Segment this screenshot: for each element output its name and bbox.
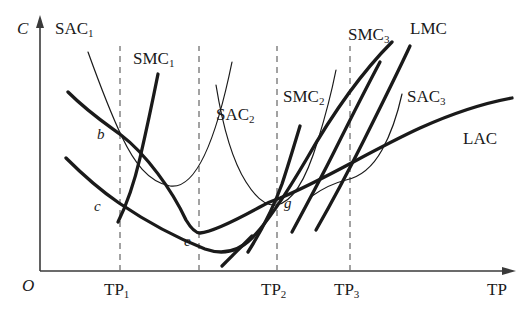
curve-label-smc1: SMC1 <box>133 50 174 69</box>
tick-label-tp3: TP3 <box>334 281 359 300</box>
curve-label-sac3-text: SAC <box>407 87 440 106</box>
curve-label-smc1-text: SMC <box>133 49 169 68</box>
curve-label-lac: LAC <box>463 130 497 147</box>
tick-label-tp1-sub: 1 <box>124 288 130 300</box>
point-label-b: b <box>97 127 105 142</box>
origin-label: O <box>22 277 34 294</box>
curve-label-sac2-sub: 2 <box>249 113 255 125</box>
tick-label-tp3-sub: 3 <box>354 288 360 300</box>
point-label-g: g <box>284 196 292 211</box>
curve-label-smc2-sub: 2 <box>319 95 325 107</box>
point-label-c: c <box>94 199 101 214</box>
curve-label-sac1-text: SAC <box>55 19 88 38</box>
tick-label-tp2: TP2 <box>261 281 286 300</box>
x-axis-arrowhead <box>502 267 516 275</box>
tick-label-tp1-text: TP <box>104 280 124 299</box>
x-axis-label: TP <box>487 281 507 298</box>
tick-label-tp1: TP1 <box>104 281 129 300</box>
curve-label-sac2: SAC2 <box>216 106 255 125</box>
tick-label-tp2-text: TP <box>261 280 281 299</box>
curve-label-sac3: SAC3 <box>407 88 446 107</box>
curve-label-lmc: LMC <box>410 20 447 37</box>
y-axis-arrowhead <box>36 15 44 28</box>
curve-label-sac1: SAC1 <box>55 20 94 39</box>
curve-label-lac-text: LAC <box>463 129 497 148</box>
tick-label-tp2-sub: 2 <box>281 288 287 300</box>
tick-label-tp3-text: TP <box>334 280 354 299</box>
curve-label-smc1-sub: 1 <box>169 57 175 69</box>
y-axis-label: C <box>17 20 28 37</box>
cost-curves-plot <box>0 0 529 320</box>
curve-label-smc3: SMC3 <box>348 26 389 45</box>
curve-label-sac2-text: SAC <box>216 105 249 124</box>
cost-curves-figure: C O TP TP1 TP2 TP3 SAC1 SMC1 SAC2 SMC2 S… <box>0 0 529 320</box>
curve-label-smc3-sub: 3 <box>384 33 390 45</box>
curve-label-smc2-text: SMC <box>283 87 319 106</box>
curve-label-smc3-text: SMC <box>348 25 384 44</box>
curve-label-sac3-sub: 3 <box>440 95 446 107</box>
axis-group <box>36 15 516 275</box>
point-label-e: e <box>184 234 191 249</box>
curve-label-sac1-sub: 1 <box>88 27 94 39</box>
curve-label-lmc-text: LMC <box>410 19 447 38</box>
curve-sac1 <box>88 52 232 186</box>
curve-label-smc2: SMC2 <box>283 88 324 107</box>
